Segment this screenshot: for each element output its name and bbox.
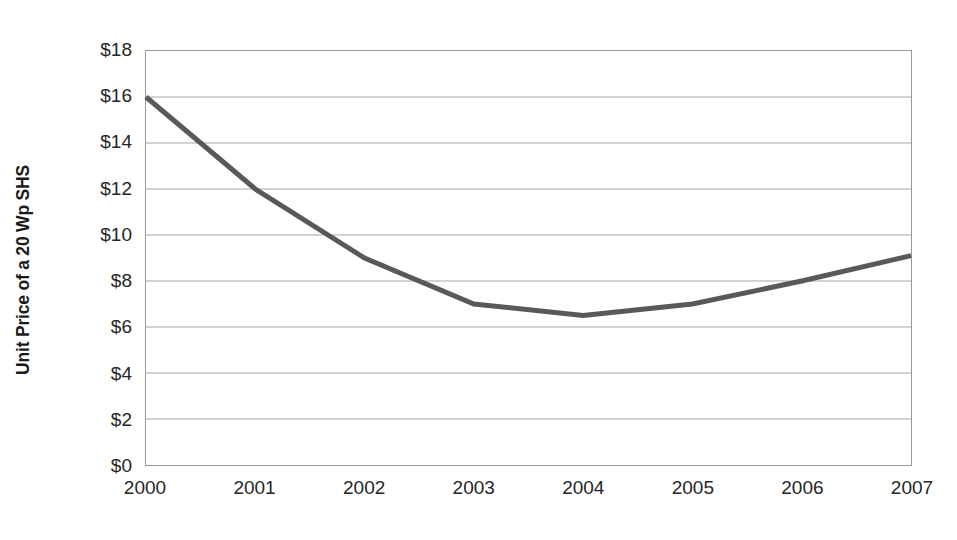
data-series-group [146, 97, 911, 316]
y-tick-label: $16 [48, 85, 132, 107]
y-tick-label: $12 [48, 178, 132, 200]
y-tick-label: $14 [48, 131, 132, 153]
y-tick-label: $0 [48, 455, 132, 477]
plot-svg [146, 51, 911, 465]
y-axis-title: Unit Price of a 20 Wp SHS [0, 0, 46, 540]
y-tick-label: $18 [48, 39, 132, 61]
x-axis-tick-labels: 20002001200220032004200520062007 [145, 477, 912, 507]
x-tick-label: 2007 [891, 477, 933, 499]
y-tick-label: $6 [48, 316, 132, 338]
data-line-series [146, 97, 911, 316]
x-tick-label: 2000 [124, 477, 166, 499]
x-tick-label: 2001 [233, 477, 275, 499]
y-axis-tick-labels: $18$16$14$12$10$8$6$4$2$0 [48, 0, 132, 540]
x-tick-label: 2002 [343, 477, 385, 499]
y-tick-label: $8 [48, 270, 132, 292]
y-tick-label: $10 [48, 224, 132, 246]
x-tick-label: 2006 [781, 477, 823, 499]
x-tick-label: 2003 [453, 477, 495, 499]
plot-area [145, 50, 912, 466]
y-tick-label: $4 [48, 363, 132, 385]
y-tick-label: $2 [48, 409, 132, 431]
line-chart: Unit Price of a 20 Wp SHS $18$16$14$12$1… [0, 0, 957, 540]
x-tick-label: 2005 [672, 477, 714, 499]
gridlines [146, 97, 911, 419]
x-tick-label: 2004 [562, 477, 604, 499]
